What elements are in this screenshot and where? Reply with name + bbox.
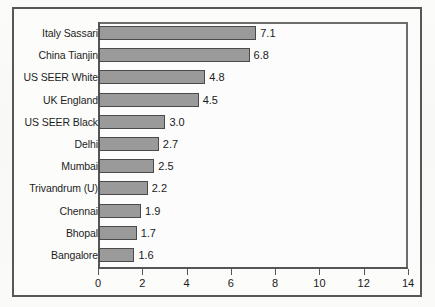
x-axis-tick-label: 4 xyxy=(175,276,199,290)
x-axis-tick-label: 6 xyxy=(219,276,243,290)
x-axis-line xyxy=(98,267,408,269)
bar-value-label: 4.5 xyxy=(203,93,218,108)
x-axis-tick xyxy=(408,269,409,275)
bar xyxy=(99,48,250,62)
x-axis-tick xyxy=(187,269,188,275)
x-axis-tick xyxy=(231,269,232,275)
bar-row: Delhi2.7 xyxy=(0,134,435,156)
bar xyxy=(99,204,141,218)
x-axis-tick xyxy=(142,269,143,275)
bar xyxy=(99,26,256,40)
bar xyxy=(99,137,159,151)
bar xyxy=(99,248,134,262)
category-label: Bhopal xyxy=(6,226,98,241)
bar-value-label: 7.1 xyxy=(260,26,275,41)
bar-row: US SEER White4.8 xyxy=(0,67,435,89)
bar-row: UK England4.5 xyxy=(0,90,435,112)
bar xyxy=(99,159,154,173)
category-label: US SEER Black xyxy=(6,115,98,130)
bar-value-label: 2.7 xyxy=(163,137,178,152)
chart-figure: Italy Sassari7.1China Tianjin6.8US SEER … xyxy=(0,0,435,307)
bar-value-label: 2.2 xyxy=(152,181,167,196)
bar-row: Bhopal1.7 xyxy=(0,223,435,245)
bar-value-label: 3.0 xyxy=(169,115,184,130)
category-label: UK England xyxy=(6,93,98,108)
x-axis-tick-label: 0 xyxy=(86,276,110,290)
category-label: Delhi xyxy=(6,137,98,152)
category-label: China Tianjin xyxy=(6,48,98,63)
x-axis-tick-label: 12 xyxy=(352,276,376,290)
bar-value-label: 1.6 xyxy=(138,248,153,263)
category-label: Mumbai xyxy=(6,159,98,174)
x-axis-tick xyxy=(98,269,99,275)
x-axis-tick xyxy=(364,269,365,275)
category-label: Italy Sassari xyxy=(6,26,98,41)
bar-row: Bangalore1.6 xyxy=(0,245,435,267)
bar-row: Trivandrum (U)2.2 xyxy=(0,178,435,200)
x-axis-tick-label: 2 xyxy=(130,276,154,290)
x-axis-tick xyxy=(319,269,320,275)
bar-row: Chennai1.9 xyxy=(0,201,435,223)
x-axis-tick-label: 8 xyxy=(263,276,287,290)
bar-row: US SEER Black3.0 xyxy=(0,112,435,134)
x-axis-tick-label: 10 xyxy=(307,276,331,290)
x-axis-tick xyxy=(275,269,276,275)
bar xyxy=(99,115,165,129)
bar xyxy=(99,181,148,195)
bar-value-label: 4.8 xyxy=(209,70,224,85)
x-axis-tick-label: 14 xyxy=(396,276,420,290)
category-label: US SEER White xyxy=(6,70,98,85)
bar-row: Italy Sassari7.1 xyxy=(0,23,435,45)
category-label: Trivandrum (U) xyxy=(6,181,98,196)
bar xyxy=(99,70,205,84)
bar-row: China Tianjin6.8 xyxy=(0,45,435,67)
category-label: Chennai xyxy=(6,204,98,219)
bar-value-label: 6.8 xyxy=(254,48,269,63)
bar-row: Mumbai2.5 xyxy=(0,156,435,178)
bar xyxy=(99,226,137,240)
bar xyxy=(99,93,199,107)
bar-value-label: 2.5 xyxy=(158,159,173,174)
bar-value-label: 1.7 xyxy=(141,226,156,241)
bar-value-label: 1.9 xyxy=(145,204,160,219)
category-label: Bangalore xyxy=(6,248,98,263)
